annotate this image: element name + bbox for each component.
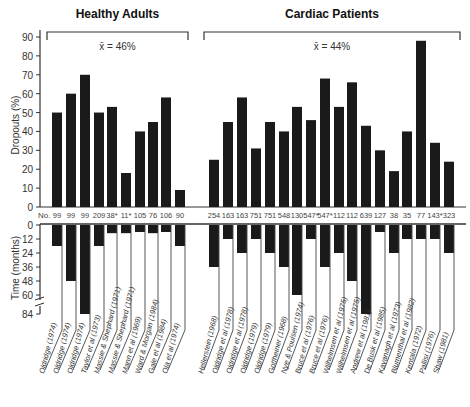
- group-cardiac-patients: Cardiac Patientsx̄ = 44%254Hellerstein (…: [196, 7, 460, 375]
- axis-break-icon: [35, 297, 44, 306]
- dropout-chart: 0102030405060708090Dropouts (%)No.012243…: [0, 0, 470, 407]
- dropout-bar: [94, 113, 104, 207]
- group-bracket: [47, 32, 188, 40]
- time-bar: [52, 225, 62, 246]
- y-tick-label: 50: [22, 108, 34, 119]
- dropout-bar: [389, 171, 399, 207]
- time-bar: [223, 225, 233, 239]
- time-bar: [237, 225, 247, 253]
- dropout-bar: [402, 131, 412, 207]
- y-tick-label: 60: [22, 89, 34, 100]
- time-bar: [148, 225, 158, 233]
- dropout-bar: [161, 97, 171, 207]
- n-value: 163: [222, 211, 235, 220]
- time-tick-label: 24: [22, 248, 34, 259]
- time-bar: [161, 225, 171, 232]
- time-bar: [416, 225, 426, 239]
- time-bar: [251, 225, 261, 239]
- time-bar: [375, 225, 385, 232]
- time-tick-label: 0: [27, 220, 33, 231]
- group-healthy-adults: Healthy Adultsx̄ = 46%99Oldridge (1974)9…: [37, 7, 188, 374]
- dropout-bar: [416, 41, 426, 207]
- n-value: 323: [443, 211, 456, 220]
- dropout-bar: [251, 148, 261, 207]
- n-value: 99: [53, 211, 61, 220]
- group-mean-label: x̄ = 46%: [99, 41, 136, 52]
- dropout-bar: [444, 162, 454, 207]
- n-value: 639: [360, 211, 373, 220]
- time-tick-label: 48: [22, 276, 34, 287]
- group-mean-label: x̄ = 44%: [314, 41, 351, 52]
- n-value: 99: [67, 211, 75, 220]
- n-value: 130: [291, 211, 304, 220]
- dropout-bar: [148, 122, 158, 207]
- y-tick-label: 30: [22, 145, 34, 156]
- y-tick-label: 90: [22, 32, 34, 43]
- n-value: 35: [403, 211, 411, 220]
- y-axis-label-dropouts: Dropouts (%): [10, 96, 21, 155]
- time-tick-label: 12: [22, 234, 34, 245]
- dropout-bar: [292, 107, 302, 207]
- n-value: 99: [81, 211, 89, 220]
- n-row-label: No.: [38, 211, 50, 220]
- n-value: 38*: [106, 211, 117, 220]
- time-bar: [444, 225, 454, 253]
- n-value: 751: [250, 211, 263, 220]
- time-bar: [175, 225, 185, 246]
- dropout-bar: [223, 122, 233, 207]
- time-tick-label: 84: [22, 309, 34, 320]
- dropout-bar: [320, 79, 330, 207]
- time-bar: [121, 225, 131, 233]
- dropout-bar: [175, 190, 185, 207]
- time-bar: [107, 225, 117, 233]
- y-axis-label-time: Time (months): [10, 236, 21, 300]
- n-value: 11*: [121, 211, 132, 220]
- n-value: 751: [264, 211, 277, 220]
- n-value: 127: [374, 211, 387, 220]
- time-bar: [94, 225, 104, 246]
- n-value: 143*: [427, 211, 443, 220]
- dropout-bar: [80, 75, 90, 207]
- group-title: Cardiac Patients: [285, 7, 379, 21]
- y-tick-label: 20: [22, 164, 34, 175]
- time-bar: [361, 225, 371, 314]
- dropout-bar: [66, 94, 76, 207]
- n-value: 90: [176, 211, 184, 220]
- y-tick-label: 70: [22, 70, 34, 81]
- dropout-bar: [430, 143, 440, 207]
- n-value: 105: [134, 211, 147, 220]
- n-value: 112: [333, 211, 345, 220]
- dropout-bar: [279, 131, 289, 207]
- y-tick-label: 10: [22, 183, 34, 194]
- time-bar: [279, 225, 289, 267]
- time-bar: [209, 225, 219, 267]
- dropout-bar: [361, 126, 371, 207]
- dropout-bar: [52, 113, 62, 207]
- n-value: 547*: [317, 211, 333, 220]
- time-bar: [306, 225, 316, 239]
- dropout-bar: [265, 122, 275, 207]
- n-value: 209: [93, 211, 106, 220]
- dropout-bar: [135, 131, 145, 207]
- time-bar: [320, 225, 330, 267]
- y-tick-label: 0: [27, 202, 33, 213]
- time-bar: [389, 225, 399, 253]
- n-value: 163: [236, 211, 249, 220]
- n-value: 77: [417, 211, 425, 220]
- time-bar: [135, 225, 145, 232]
- time-bar: [80, 225, 90, 314]
- n-value: 254: [208, 211, 221, 220]
- time-bar: [347, 225, 357, 281]
- dropout-bar: [347, 82, 357, 207]
- y-tick-label: 80: [22, 51, 34, 62]
- time-tick-label: 36: [22, 262, 34, 273]
- dropout-bar: [375, 150, 385, 207]
- y-tick-label: 40: [22, 126, 34, 137]
- time-bar: [402, 225, 412, 239]
- dropout-bar: [107, 107, 117, 207]
- dropout-bar: [121, 173, 131, 207]
- n-value: 548: [278, 211, 291, 220]
- n-value: 106: [160, 211, 173, 220]
- dropout-bar: [306, 120, 316, 207]
- time-bar: [265, 225, 275, 253]
